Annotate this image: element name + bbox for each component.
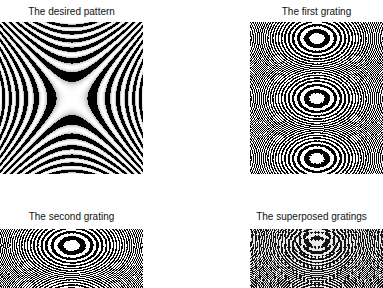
panel-title-desired-pattern: The desired pattern	[0, 6, 143, 18]
desired-pattern-image	[0, 22, 143, 174]
first-grating-image	[250, 22, 383, 174]
superposed-gratings-image	[250, 229, 383, 288]
panel-title-superposed-gratings: The superposed gratings	[240, 211, 383, 223]
panel-title-first-grating: The first grating	[250, 6, 383, 18]
second-grating-image	[0, 229, 143, 288]
panel-title-second-grating: The second grating	[0, 211, 143, 223]
